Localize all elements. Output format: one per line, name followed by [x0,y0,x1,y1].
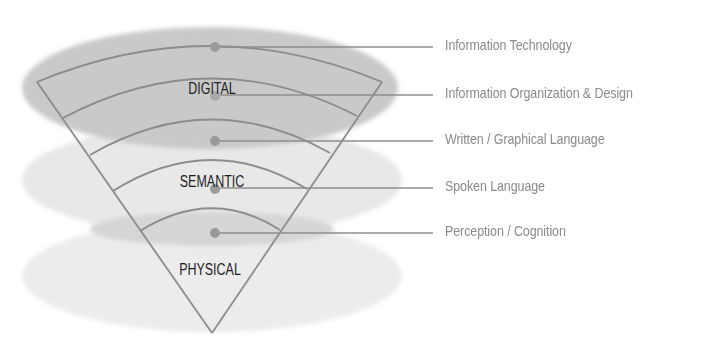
level-label-information-organization: Information Organization & Design [445,85,633,101]
layer-label-digital: DIGITAL [188,80,236,98]
layer-cone-diagram [0,0,710,353]
level-label-written-graphical-language: Written / Graphical Language [445,131,605,147]
dot-icon [210,42,220,52]
layer-label-semantic: SEMANTIC [180,173,244,191]
level-label-information-technology: Information Technology [445,37,572,53]
level-label-spoken-language: Spoken Language [445,178,545,194]
dot-icon [210,136,220,146]
dot-icon [210,228,220,238]
layer-label-physical: PHYSICAL [179,261,241,279]
level-label-perception-cognition: Perception / Cognition [445,223,566,239]
